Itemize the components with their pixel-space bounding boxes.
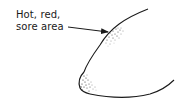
pointer-arrow bbox=[68, 27, 108, 32]
nipple-stipple bbox=[80, 75, 96, 92]
nipple-outline bbox=[79, 72, 90, 94]
breast-outline-upper bbox=[84, 9, 148, 72]
breast-outline-lower bbox=[90, 80, 174, 97]
sore-area-stipple bbox=[106, 28, 124, 47]
breast-illustration bbox=[0, 0, 183, 110]
